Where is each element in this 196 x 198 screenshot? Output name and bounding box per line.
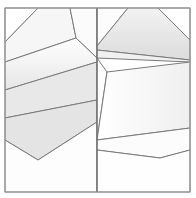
facet-right-bottom <box>97 150 190 192</box>
geometric-diagram <box>0 0 196 198</box>
panel-left <box>5 8 97 192</box>
facet-right-mid-diagonal <box>97 62 190 140</box>
panel-right <box>97 8 190 192</box>
diagram-canvas <box>0 0 196 198</box>
